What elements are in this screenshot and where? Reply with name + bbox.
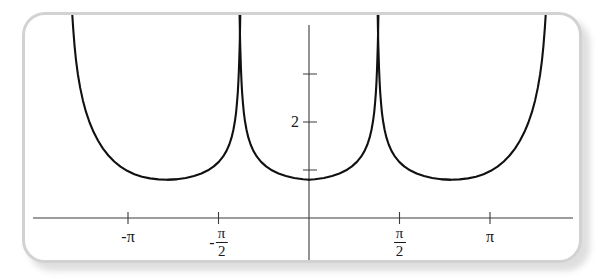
curve-branch-left-inner xyxy=(167,15,240,180)
curve-branch-right-outer xyxy=(441,15,546,180)
curve-branch-left-outer xyxy=(72,15,177,180)
curve-branch-center-left xyxy=(309,15,378,180)
fraction-sign: - xyxy=(209,235,214,251)
fraction-numerator: π xyxy=(394,226,406,242)
x-tick-label-neg-pi: -π xyxy=(121,229,134,245)
figure-root: 2 -π - π 2 π 2 xyxy=(0,0,611,278)
x-tick-label-pi-over-2: π 2 xyxy=(394,226,406,259)
fraction-stack: π 2 xyxy=(216,226,228,259)
plot-frame: 2 -π - π 2 π 2 xyxy=(22,12,582,263)
x-tick-label-pi: π xyxy=(486,229,494,245)
fraction-pi-over-2: π 2 xyxy=(394,226,406,259)
curve-branch-right-inner xyxy=(378,15,451,180)
fraction-denominator: 2 xyxy=(394,243,406,259)
curve-branch-center-right xyxy=(240,15,309,180)
fraction-neg-pi-over-2: - π 2 xyxy=(209,226,227,259)
y-tick-label-2: 2 xyxy=(291,114,299,130)
fraction-stack: π 2 xyxy=(394,226,406,259)
x-tick-label-neg-pi-over-2: - π 2 xyxy=(209,226,227,259)
fraction-numerator: π xyxy=(216,226,228,242)
fraction-denominator: 2 xyxy=(216,243,228,259)
plot-canvas xyxy=(25,15,579,260)
